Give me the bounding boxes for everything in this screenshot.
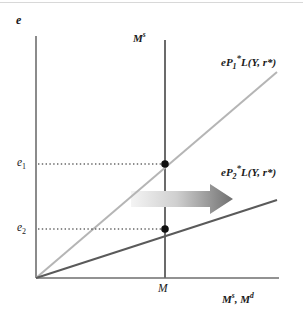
equilibrium-point-e1 [161, 160, 169, 168]
y-tick-e1-subscript: 1 [22, 162, 26, 171]
money-supply-line-label: Ms [133, 33, 146, 44]
plot-canvas [0, 0, 303, 318]
curve-1-label: eP1*L(Y, r*) [221, 57, 276, 68]
shift-arrow [131, 184, 233, 214]
y-tick-e2-subscript: 2 [22, 227, 26, 236]
y-tick-label-e1: e1 [17, 157, 26, 169]
x-axis-label-md-superscript: d [250, 291, 254, 300]
economics-diagram-figure: e Ms eP1*L(Y, r*) eP2*L(Y, r*) e1 e2 M M… [0, 0, 303, 318]
money-supply-label-base: M [133, 32, 143, 44]
x-axis-label: Ms, Md [222, 294, 254, 305]
x-axis-label-ms-base: M [222, 293, 232, 305]
equilibrium-point-e2 [161, 225, 169, 233]
y-axis-label: e [16, 14, 21, 26]
money-supply-label-superscript: s [143, 30, 146, 39]
curve-1-label-suffix: L(Y, r*) [241, 56, 276, 68]
curve-2-label: eP2*L(Y, r*) [221, 167, 276, 178]
curve-2-label-prefix: eP [221, 166, 233, 178]
x-axis-label-md-base: M [240, 293, 250, 305]
y-tick-label-e2: e2 [17, 222, 26, 234]
x-tick-label-m: M [158, 283, 168, 295]
curve-1-label-subscript: 1 [233, 62, 237, 71]
money-demand-curve-2 [36, 200, 277, 278]
curve-1-label-prefix: eP [221, 56, 233, 68]
curve-2-label-subscript: 2 [233, 172, 237, 181]
curve-2-label-suffix: L(Y, r*) [241, 166, 276, 178]
